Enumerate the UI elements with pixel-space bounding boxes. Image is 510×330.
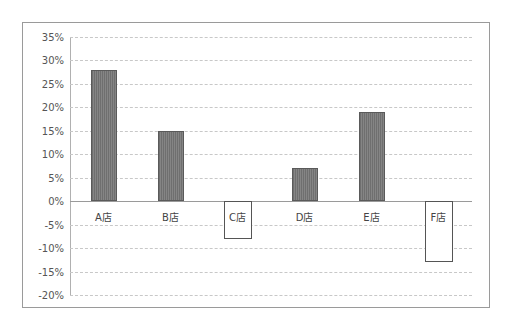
y-tick-label: 0% [24, 196, 64, 207]
x-category-label: C店 [218, 209, 258, 224]
zero-baseline [70, 201, 472, 202]
bar-B店 [158, 131, 184, 201]
y-tick-label: 30% [24, 55, 64, 66]
gridline [70, 225, 472, 226]
x-category-label: A店 [84, 209, 124, 224]
x-category-label: E店 [352, 209, 392, 224]
gridline [70, 60, 472, 61]
y-tick-label: -20% [24, 290, 64, 301]
gridline [70, 131, 472, 132]
gridline [70, 248, 472, 249]
plot-area: A店B店C店D店E店F店 [70, 37, 472, 295]
gridline [70, 84, 472, 85]
gridline [70, 272, 472, 273]
y-tick-label: 5% [24, 172, 64, 183]
gridline [70, 154, 472, 155]
gridline [70, 107, 472, 108]
bar-A店 [91, 70, 117, 201]
gridline [70, 178, 472, 179]
y-tick-label: 20% [24, 102, 64, 113]
y-tick-label: 10% [24, 149, 64, 160]
bar-E店 [359, 112, 385, 201]
x-category-label: B店 [151, 209, 191, 224]
bar-D店 [292, 168, 318, 201]
y-axis-line [70, 37, 71, 295]
gridline [70, 295, 472, 296]
y-tick-label: 15% [24, 125, 64, 136]
x-category-label: F店 [419, 209, 459, 224]
y-tick-label: -10% [24, 243, 64, 254]
figure-caption [160, 318, 400, 328]
gridline [70, 37, 472, 38]
y-tick-label: 25% [24, 78, 64, 89]
x-category-label: D店 [285, 209, 325, 224]
y-tick-label: -5% [24, 219, 64, 230]
y-tick-label: 35% [24, 32, 64, 43]
y-tick-label: -15% [24, 266, 64, 277]
